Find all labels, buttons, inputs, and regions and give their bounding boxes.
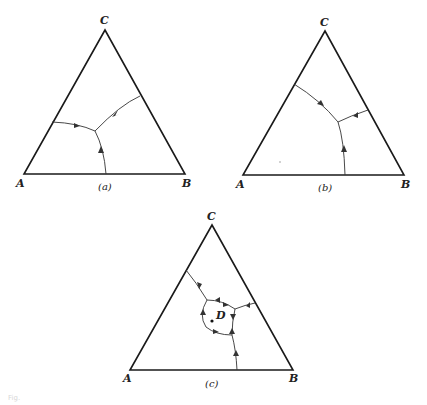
boundary-a-left: [52, 122, 95, 131]
vertex-label-c: C: [320, 16, 329, 29]
arrow-icon: [200, 309, 206, 315]
boundary-b-left: [294, 84, 338, 122]
vertex-label-c: C: [207, 210, 216, 223]
arrow-icon: [317, 100, 324, 106]
panel-c: D C A B (c): [122, 210, 298, 389]
vertex-label-a: A: [15, 177, 25, 190]
vertex-label-a: A: [235, 178, 245, 191]
panel-caption-a: (a): [98, 181, 112, 192]
boundary-c-right: [235, 303, 255, 309]
boundary-c-top-loop: [207, 300, 235, 309]
arrow-icon: [98, 146, 104, 153]
figure-caption: Fig.: [8, 394, 20, 402]
vertex-label-b: B: [181, 177, 191, 190]
triangle-a: [24, 30, 185, 174]
triangle-b: [243, 31, 404, 175]
arrow-icon: [230, 314, 236, 320]
stray-dot: [279, 161, 281, 163]
point-label-d: D: [215, 309, 226, 322]
boundary-a-right: [95, 96, 140, 131]
arrow-icon: [233, 350, 239, 356]
arrow-icon: [229, 328, 235, 334]
arrow-icon: [215, 297, 220, 303]
ternary-diagrams: C A B (a) C A B (b) D: [0, 0, 427, 405]
arrow-icon: [341, 145, 347, 152]
vertex-label-b: B: [400, 178, 410, 191]
vertex-label-a: A: [122, 372, 132, 385]
panel-caption-b: (b): [318, 182, 332, 193]
vertex-label-b: B: [288, 372, 298, 385]
panel-caption-c: (c): [205, 378, 219, 389]
boundary-c-upper-left: [186, 270, 207, 300]
panel-a: C A B (a): [15, 14, 191, 192]
point-d-marker: [210, 319, 213, 322]
triangle-c: [130, 225, 293, 370]
panel-b: C A B (b): [235, 16, 410, 193]
vertex-label-c: C: [100, 14, 109, 27]
